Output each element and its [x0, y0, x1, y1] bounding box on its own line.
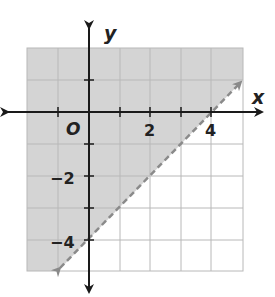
x-axis-label: x	[251, 86, 265, 108]
y-tick-label-neg4: −4	[50, 233, 75, 252]
y-axis-label: y	[104, 22, 118, 44]
inequality-graph: x y O 2 4 −2 −4	[0, 0, 275, 297]
x-tick-label-2: 2	[144, 121, 155, 140]
origin-label: O	[66, 119, 80, 139]
x-tick-label-4: 4	[205, 121, 216, 140]
y-tick-label-neg2: −2	[50, 169, 75, 188]
